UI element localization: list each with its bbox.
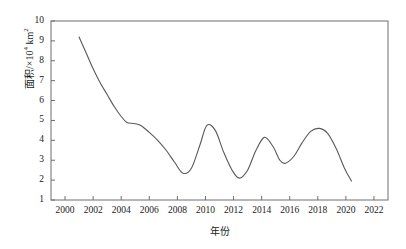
line-chart: 12345678910 2000200220042006200820102012…	[0, 0, 406, 249]
y-axis-title-unit-exponent: 2	[22, 28, 30, 32]
x-axis-tick-label: 2022	[357, 206, 391, 216]
data-series-line	[79, 37, 351, 181]
x-axis-title: 年份	[51, 226, 389, 237]
y-axis-tick-label: 2	[26, 175, 44, 185]
y-axis-tick-label: 1	[26, 195, 44, 205]
y-axis-title: 面积/×104 km2	[21, 0, 34, 139]
y-axis-tick-label: 3	[26, 155, 44, 165]
x-axis-ticks	[65, 196, 374, 200]
y-axis-title-exponent: 4	[22, 47, 30, 51]
y-axis-title-unit: km	[24, 32, 35, 47]
y-axis-ticks	[51, 21, 55, 200]
y-axis-title-main: 面积/×10	[24, 51, 35, 89]
plot-frame	[51, 21, 388, 200]
